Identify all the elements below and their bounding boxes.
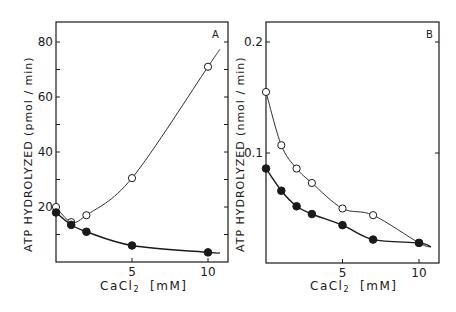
open-series-curve xyxy=(56,49,220,222)
x-tick-label: 10 xyxy=(200,265,215,279)
y-tick-label: 80 xyxy=(38,35,53,49)
x-label-sub: 2 xyxy=(133,285,140,294)
panel-b: 0.10.2 510 B ATP HYDROLYZED (nmol / min)… xyxy=(234,22,439,294)
panel-a-label: A xyxy=(212,29,219,40)
panel-b-y-axis-label: ATP HYDROLYZED (nmol / min) xyxy=(234,56,247,252)
panel-b-y-ticks: 0.10.2 xyxy=(244,35,439,160)
filled-circle-point xyxy=(204,249,212,257)
y-tick-label: 0.2 xyxy=(244,35,263,49)
filled-circle-point xyxy=(415,239,423,247)
x-label-main: CaCl xyxy=(100,279,133,293)
open-circle-point xyxy=(339,205,346,212)
open-circle-point xyxy=(128,175,135,182)
y-tick-label: 40 xyxy=(38,145,53,159)
filled-circle-point xyxy=(262,165,270,173)
open-circle-point xyxy=(370,212,377,219)
x-label-unit: [mM] xyxy=(360,279,397,293)
filled-circle-point xyxy=(128,242,136,250)
filled-circle-point xyxy=(339,221,347,229)
filled-circle-point xyxy=(278,187,286,195)
y-tick-label: 20 xyxy=(38,200,53,214)
panel-b-points xyxy=(262,88,423,246)
open-circle-point xyxy=(204,63,211,70)
filled-circle-point xyxy=(83,228,91,236)
x-label-main: CaCl xyxy=(310,279,343,293)
panel-a-curves xyxy=(56,49,220,253)
open-circle-point xyxy=(308,179,315,186)
open-series-curve xyxy=(266,92,431,247)
x-tick-label: 5 xyxy=(128,265,136,279)
filled-circle-point xyxy=(308,210,316,218)
open-circle-point xyxy=(262,88,269,95)
panel-a-x-ticks: 510 xyxy=(128,258,215,279)
filled-circle-point xyxy=(369,236,377,244)
panel-a-y-axis-label: ATP HYDROLYZED (pmol / min) xyxy=(22,56,35,252)
open-circle-point xyxy=(278,142,285,149)
filled-series-curve xyxy=(56,213,220,254)
open-circle-point xyxy=(293,165,300,172)
open-circle-point xyxy=(83,212,90,219)
filled-circle-point xyxy=(52,209,60,217)
filled-circle-point xyxy=(293,202,301,210)
x-label-unit: [mM] xyxy=(150,279,187,293)
panel-a-x-axis-label: CaCl2[mM] xyxy=(100,279,187,294)
panel-b-x-ticks: 510 xyxy=(339,259,427,280)
panel-a-y-ticks: 20406080 xyxy=(38,35,228,235)
figure: 20406080 510 A ATP HYDROLYZED (pmol / mi… xyxy=(0,0,456,312)
x-label-sub: 2 xyxy=(343,285,350,294)
panel-a: 20406080 510 A ATP HYDROLYZED (pmol / mi… xyxy=(22,22,228,294)
panel-b-x-axis-label: CaCl2[mM] xyxy=(310,279,397,294)
panel-b-label: B xyxy=(426,29,433,40)
panel-b-curves xyxy=(266,92,431,247)
x-tick-label: 10 xyxy=(411,266,426,280)
filled-circle-point xyxy=(67,221,75,229)
y-tick-label: 60 xyxy=(38,90,53,104)
x-tick-label: 5 xyxy=(339,266,347,280)
panel-b-frame xyxy=(266,22,439,263)
panel-a-frame xyxy=(56,22,228,262)
